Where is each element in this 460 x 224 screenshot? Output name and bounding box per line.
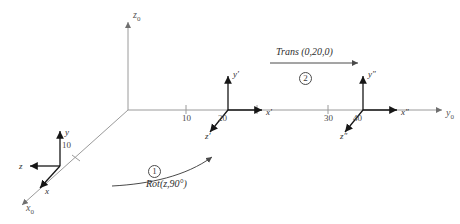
translation-step-badge: 2 — [299, 68, 312, 85]
frame-2-x-label: x″ — [401, 108, 409, 117]
tick-label-y0-40: 40 — [353, 114, 362, 123]
y0-axis-label: y0 — [446, 108, 454, 121]
rotation-label: Rot(z,90°) — [146, 179, 187, 189]
frame-1-y-label: y′ — [233, 70, 239, 79]
z0-axis-label: z0 — [133, 10, 140, 23]
diagram-canvas: z0 y0 x0 10 10 20 30 40 y z x y′ x′ z′ y… — [0, 0, 460, 224]
rotation-step-badge: 1 — [148, 161, 161, 178]
frame-1-axes — [210, 76, 262, 132]
frame-0-y-label: y — [65, 128, 69, 137]
frame-2-y-label: y″ — [368, 70, 376, 79]
frame-0-x-label: x — [45, 187, 49, 196]
translation-label: Trans (0,20,0) — [276, 47, 333, 57]
tick-label-x0-10: 10 — [62, 141, 71, 150]
tick-marks — [72, 105, 328, 161]
tick-label-y0-10: 10 — [182, 114, 191, 123]
x0-axis-label: x0 — [26, 203, 34, 216]
frame-0-axes — [30, 131, 60, 188]
frame-1-x-label: x′ — [266, 108, 272, 117]
frame-2-z-label: z″ — [340, 132, 347, 141]
frame-1-z-label: z′ — [205, 132, 210, 141]
tick-label-y0-30: 30 — [324, 114, 333, 123]
tick-label-y0-20: 20 — [218, 114, 227, 123]
frame-2-axes — [345, 76, 397, 132]
frame-0-z-label: z — [19, 162, 23, 171]
diagram-svg — [0, 0, 460, 224]
